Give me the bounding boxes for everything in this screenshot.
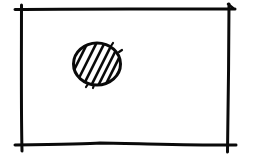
frame-bottom-edge xyxy=(15,143,236,145)
hatched-circle xyxy=(70,38,128,90)
circle-outline xyxy=(74,43,121,85)
frame-left-edge xyxy=(21,5,22,151)
sketch-canvas xyxy=(0,0,256,157)
frame-right-edge xyxy=(228,4,230,152)
rectangle-frame xyxy=(15,4,236,152)
frame-top-edge xyxy=(15,9,235,10)
